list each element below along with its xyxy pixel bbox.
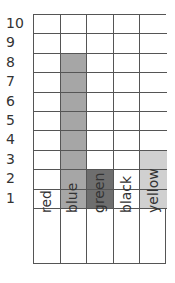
grid-cell — [114, 112, 141, 131]
grid-cell — [140, 15, 167, 34]
grid-cell — [34, 112, 61, 131]
category-label-cell: green — [87, 209, 114, 263]
grid-cell — [87, 93, 114, 112]
grid-cell — [61, 93, 88, 112]
y-tick-label: 5 — [6, 111, 26, 130]
y-tick-label: 3 — [6, 150, 26, 169]
grid-cell — [34, 131, 61, 150]
y-tick-label: 7 — [6, 72, 26, 91]
y-tick-label: 2 — [6, 169, 26, 188]
bar-column-blue: blue — [61, 15, 88, 263]
grid-cell — [87, 15, 114, 34]
grid-cell — [61, 73, 88, 92]
grid-cell — [87, 112, 114, 131]
grid-cell — [61, 15, 88, 34]
grid-cell — [140, 112, 167, 131]
grid-cell — [140, 93, 167, 112]
grid-cell — [61, 112, 88, 131]
grid-cell — [34, 54, 61, 73]
category-label-cell: black — [114, 209, 141, 263]
y-tick-label: 1 — [6, 189, 26, 208]
grid-cell — [34, 34, 61, 53]
y-tick-label: 4 — [6, 130, 26, 149]
block-graph: redbluegreenblackyellow — [33, 14, 166, 264]
grid-cell — [140, 73, 167, 92]
grid-cell — [87, 131, 114, 150]
y-tick-label: 6 — [6, 92, 26, 111]
grid-cell — [87, 73, 114, 92]
grid-cell — [114, 73, 141, 92]
grid-cell — [114, 15, 141, 34]
grid-cell — [34, 151, 61, 170]
category-label-cell: blue — [61, 209, 88, 263]
y-tick-label: 9 — [6, 33, 26, 52]
grid-cell — [87, 54, 114, 73]
bar-column-red: red — [34, 15, 61, 263]
category-label: yellow — [145, 168, 161, 213]
y-tick-label: 10 — [6, 14, 26, 33]
grid-cell — [61, 131, 88, 150]
category-label: black — [118, 176, 134, 213]
grid-cell — [34, 170, 61, 189]
bar-column-yellow: yellow — [140, 15, 167, 263]
category-label: blue — [64, 183, 80, 213]
bar-column-green: green — [87, 15, 114, 263]
grid-cell — [34, 15, 61, 34]
grid-cell — [61, 34, 88, 53]
grid-cell — [61, 151, 88, 170]
grid-cell — [140, 34, 167, 53]
category-label-cell: yellow — [140, 209, 167, 263]
grid-cell — [114, 34, 141, 53]
grid-cell — [34, 73, 61, 92]
grid-cell — [114, 93, 141, 112]
grid-cell — [114, 54, 141, 73]
grid-cell — [114, 131, 141, 150]
grid-cell — [87, 151, 114, 170]
grid-cell — [140, 131, 167, 150]
category-label-cell: red — [34, 209, 61, 263]
grid-cell — [34, 93, 61, 112]
bar-column-black: black — [114, 15, 141, 263]
grid-cell — [61, 54, 88, 73]
grid-cell — [87, 34, 114, 53]
grid-cell — [114, 151, 141, 170]
grid-cell — [140, 54, 167, 73]
grid-cell — [140, 151, 167, 170]
category-label: red — [38, 190, 54, 213]
y-tick-label: 8 — [6, 53, 26, 72]
category-label: green — [91, 173, 107, 213]
